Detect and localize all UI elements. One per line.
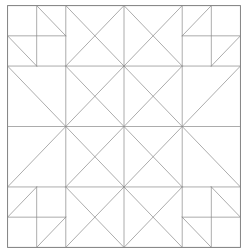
pattern-line bbox=[37, 6, 66, 36]
pattern-line bbox=[211, 187, 240, 217]
pattern-line bbox=[37, 217, 66, 247]
pattern-line bbox=[8, 187, 37, 217]
pattern-canvas bbox=[7, 5, 241, 248]
pattern-line bbox=[8, 36, 37, 66]
pattern-line bbox=[182, 217, 211, 247]
quilt-pattern-diagram bbox=[7, 5, 241, 248]
pattern-line bbox=[211, 36, 240, 66]
pattern-lines bbox=[8, 6, 241, 248]
pattern-line bbox=[182, 6, 211, 36]
